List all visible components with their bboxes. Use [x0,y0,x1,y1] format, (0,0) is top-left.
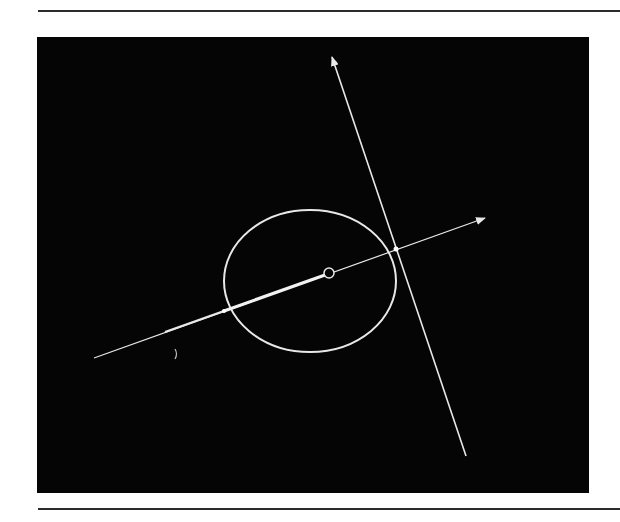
cross-line [332,57,466,456]
diagram-canvas [0,0,620,522]
bottom-rule [38,508,620,510]
artifact-mark [175,349,177,359]
radius-segment [224,275,325,311]
ray-medium-segment [165,311,224,332]
center-point-icon [324,268,334,278]
intersection-point-right [394,247,399,252]
intersection-point-left [222,309,226,313]
